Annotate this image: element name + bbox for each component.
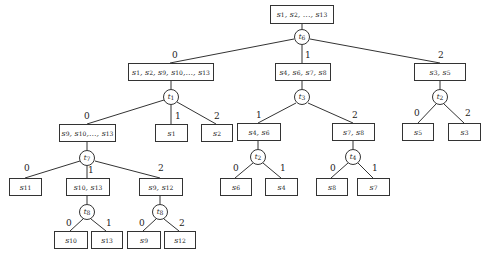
node-22: s3 (448, 123, 481, 141)
edge-label: 1 (280, 163, 286, 173)
edge-label: 2 (214, 111, 220, 121)
node-10: s4, s6 (237, 123, 281, 141)
edge-label: 1 (372, 163, 378, 173)
edge-line (308, 103, 353, 123)
test-node-root: t6 (294, 29, 310, 45)
edge-label: 1 (106, 218, 112, 228)
node-0020: s9 (127, 231, 161, 249)
test-node-00: t7 (79, 150, 95, 166)
node-0: s1, s2, s9, s10,..., s13 (128, 63, 214, 81)
edge-label: 2 (158, 163, 164, 173)
node-2: s3, s5 (414, 63, 466, 81)
test-node-002: t8 (152, 204, 168, 220)
test-node-1: t3 (294, 89, 310, 105)
node-000: s11 (9, 178, 42, 196)
edge-label: 0 (172, 50, 178, 60)
edge-line (358, 163, 373, 178)
edge-line (87, 100, 164, 124)
edge-label: 1 (305, 50, 311, 60)
edge-label: 2 (438, 50, 444, 60)
node-20: s5 (402, 123, 434, 141)
node-002: s9, s12 (139, 178, 183, 196)
edge-line (444, 104, 464, 123)
edge-label: 0 (330, 163, 336, 173)
edge-line (164, 219, 179, 231)
test-node-2: t2 (432, 89, 448, 105)
edge-label: 0 (139, 218, 145, 228)
edge-label: 0 (24, 163, 30, 173)
node-001: s10, s13 (66, 178, 110, 196)
edge-line (258, 103, 296, 123)
node-100: s6 (220, 178, 252, 196)
node-1: s4, s6, s7, s8 (275, 63, 331, 81)
edge-line (25, 161, 80, 178)
node-02: s2 (201, 124, 233, 142)
node-0010: s10 (54, 231, 88, 249)
edge-label: 1 (88, 165, 94, 175)
edge-line (177, 102, 216, 124)
node-0011: s13 (91, 231, 123, 249)
edge-label: 2 (465, 108, 471, 118)
edge-label: 0 (233, 163, 239, 173)
edge-line (91, 219, 106, 231)
edge-label: 0 (84, 111, 90, 121)
edge-label: 2 (179, 218, 185, 228)
edge-line (263, 163, 281, 178)
edge-line (95, 161, 160, 178)
test-node-12: t4 (345, 149, 361, 165)
node-01: s1 (155, 124, 188, 142)
node-101: s4 (265, 178, 298, 196)
edge-line (418, 104, 436, 123)
node-root: s1, s2, ..., s13 (270, 5, 334, 24)
node-12: s7, s8 (332, 123, 375, 141)
edge-label: 1 (175, 111, 181, 121)
node-121: s7 (357, 178, 390, 196)
edge-label: 0 (66, 218, 72, 228)
edge-line (310, 39, 440, 63)
edge-label: 0 (414, 108, 420, 118)
test-node-0: t1 (163, 89, 179, 105)
edge-line (170, 39, 294, 63)
node-00: s9, s10,..., s13 (59, 124, 116, 142)
node-120: s8 (316, 178, 348, 196)
edge-label: 2 (352, 110, 358, 120)
edge-label: 1 (256, 110, 262, 120)
node-0022: s12 (164, 231, 196, 249)
test-node-001: t8 (79, 204, 95, 220)
test-node-10: t2 (250, 149, 266, 165)
